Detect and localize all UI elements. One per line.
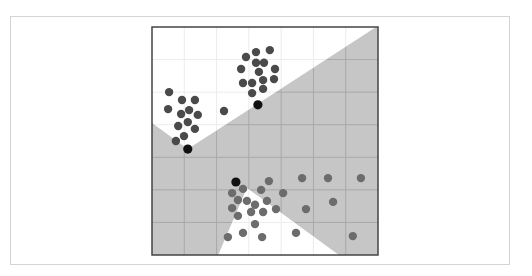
data-point [194, 111, 202, 119]
data-point [252, 59, 260, 67]
data-point [271, 65, 279, 73]
data-point [266, 46, 274, 54]
data-point [239, 79, 247, 87]
data-point [180, 132, 188, 140]
data-point [237, 65, 245, 73]
data-point [220, 107, 228, 115]
data-point [259, 76, 267, 84]
data-point [302, 205, 310, 213]
data-point [298, 174, 306, 182]
data-point [239, 229, 247, 237]
data-point [257, 186, 265, 194]
data-point [259, 85, 267, 93]
data-point [191, 96, 199, 104]
data-point [185, 106, 193, 114]
data-point [260, 59, 268, 67]
data-point [329, 198, 337, 206]
data-point [174, 122, 182, 130]
scatter-plot [0, 0, 532, 276]
data-point [292, 229, 300, 237]
data-point [258, 233, 266, 241]
data-point [184, 118, 192, 126]
data-point [270, 75, 278, 83]
data-point [279, 189, 287, 197]
centroid-point [231, 177, 240, 186]
data-point [272, 205, 280, 213]
data-point [252, 48, 260, 56]
data-point [177, 110, 185, 118]
data-point [164, 105, 172, 113]
data-point [242, 53, 250, 61]
data-point [265, 177, 273, 185]
data-point [349, 232, 357, 240]
data-point [259, 208, 267, 216]
data-point [172, 137, 180, 145]
data-point [324, 174, 332, 182]
data-point [234, 196, 242, 204]
data-point [239, 185, 247, 193]
data-point [263, 197, 271, 205]
data-point [228, 204, 236, 212]
data-point [224, 233, 232, 241]
data-point [243, 197, 251, 205]
data-point [357, 174, 365, 182]
data-point [248, 79, 256, 87]
data-point [248, 89, 256, 97]
data-point [247, 208, 255, 216]
data-point [228, 189, 236, 197]
data-point [178, 96, 186, 104]
data-point [191, 125, 199, 133]
centroid-point [183, 145, 192, 154]
data-point [255, 68, 263, 76]
data-point [251, 201, 259, 209]
centroid-point [253, 100, 262, 109]
data-point [234, 212, 242, 220]
data-point [165, 88, 173, 96]
data-point [251, 220, 259, 228]
